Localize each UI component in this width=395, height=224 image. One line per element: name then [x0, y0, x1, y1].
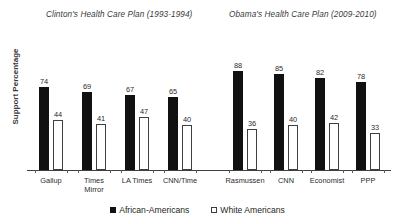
chart-legend: African-Americans White Americans — [0, 205, 395, 215]
axis-tick — [67, 170, 68, 174]
bar-value-label: 82 — [316, 68, 324, 77]
axis-tick — [110, 170, 111, 174]
axis-tick — [352, 170, 353, 174]
bar-group: 8540 — [274, 34, 298, 170]
plot-area: 7444694167476540 8836854082427833 Gallup… — [27, 34, 391, 171]
x-axis-category-label: Times Mirror — [71, 176, 117, 195]
bar-white-americans: 44 — [53, 120, 63, 169]
axis-tick — [78, 170, 79, 174]
bar-rect — [125, 95, 135, 170]
bar-value-label: 88 — [234, 61, 242, 70]
bar-rect — [247, 129, 257, 169]
bar-white-americans: 36 — [247, 129, 257, 169]
x-axis-category-label: Economist — [304, 176, 350, 186]
axis-tick — [35, 170, 36, 174]
axis-tick — [164, 170, 165, 174]
bar-white-americans: 42 — [329, 123, 339, 170]
x-axis-category-label: CNN — [263, 176, 309, 186]
legend-label-african-americans: African-Americans — [119, 205, 189, 215]
panel-title-clinton: Clinton's Health Care Plan (1993-1994) — [46, 10, 192, 19]
bar-rect — [288, 125, 298, 170]
bar-rect — [168, 97, 178, 170]
bar-rect — [233, 71, 243, 170]
bar-value-label: 78 — [357, 72, 365, 81]
bar-african-americans: 85 — [274, 74, 284, 169]
chart-page: { "chart_data": { "type": "bar", "title"… — [0, 0, 395, 224]
axis-tick — [229, 170, 230, 174]
axis-tick — [311, 170, 312, 174]
bar-value-label: 69 — [83, 82, 91, 91]
bar-rect — [82, 92, 92, 169]
bar-group: 8836 — [233, 34, 257, 170]
bar-white-americans: 40 — [182, 125, 192, 170]
axis-tick — [153, 170, 154, 174]
bar-african-americans: 67 — [125, 95, 135, 170]
bar-white-americans: 47 — [139, 117, 149, 170]
bar-rect — [53, 120, 63, 169]
bar-rect — [356, 82, 366, 169]
x-axis-category-label: Rasmussen — [222, 176, 268, 186]
bar-african-americans: 69 — [82, 92, 92, 169]
chart-panel-obama: 8836854082427833 — [227, 34, 391, 170]
axis-tick — [384, 170, 385, 174]
bar-african-americans: 74 — [39, 87, 49, 170]
bar-white-americans: 41 — [96, 124, 106, 170]
chart-panel-clinton: 7444694167476540 — [31, 34, 199, 170]
x-axis-category-label: Gallup — [28, 176, 74, 186]
legend-item-white-americans: White Americans — [211, 205, 284, 215]
axis-tick — [261, 170, 262, 174]
bar-value-label: 65 — [169, 87, 177, 96]
legend-swatch-outline-square-icon — [211, 207, 217, 213]
bar-value-label: 33 — [371, 123, 379, 132]
panel-title-obama: Obama's Health Care Plan (2009-2010) — [229, 10, 377, 19]
legend-swatch-filled-square-icon — [110, 207, 116, 213]
bar-group: 8242 — [315, 34, 339, 170]
bar-rect — [39, 87, 49, 170]
bar-value-label: 36 — [248, 119, 256, 128]
axis-tick — [121, 170, 122, 174]
bar-white-americans: 40 — [288, 125, 298, 170]
x-axis-category-label: PPP — [345, 176, 391, 186]
bar-rect — [315, 78, 325, 170]
legend-label-white-americans: White Americans — [220, 205, 284, 215]
bar-rect — [96, 124, 106, 170]
bar-value-label: 41 — [97, 114, 105, 123]
bar-value-label: 44 — [54, 110, 62, 119]
bar-rect — [274, 74, 284, 169]
x-axis-category-label: CNN/Time — [157, 176, 203, 186]
bar-value-label: 40 — [183, 115, 191, 124]
bar-group: 6941 — [82, 34, 106, 170]
bar-white-americans: 33 — [370, 133, 380, 170]
bar-african-americans: 82 — [315, 78, 325, 170]
bar-value-label: 85 — [275, 64, 283, 73]
axis-tick — [270, 170, 271, 174]
axis-tick — [343, 170, 344, 174]
bar-value-label: 74 — [40, 77, 48, 86]
y-axis-label: Support Percentage — [11, 37, 20, 137]
bar-rect — [370, 133, 380, 170]
bar-rect — [182, 125, 192, 170]
bar-value-label: 67 — [126, 85, 134, 94]
bar-value-label: 47 — [140, 107, 148, 116]
x-axis-category-label: LA Times — [114, 176, 160, 186]
bar-african-americans: 78 — [356, 82, 366, 169]
axis-tick — [196, 170, 197, 174]
bar-value-label: 42 — [330, 113, 338, 122]
bar-rect — [329, 123, 339, 170]
axis-tick — [302, 170, 303, 174]
bar-group: 7833 — [356, 34, 380, 170]
bar-african-americans: 88 — [233, 71, 243, 170]
bar-group: 7444 — [39, 34, 63, 170]
x-axis-line — [27, 170, 391, 171]
bar-group: 6747 — [125, 34, 149, 170]
legend-item-african-americans: African-Americans — [110, 205, 189, 215]
bar-value-label: 40 — [289, 115, 297, 124]
bar-rect — [139, 117, 149, 170]
bar-african-americans: 65 — [168, 97, 178, 170]
bar-group: 6540 — [168, 34, 192, 170]
